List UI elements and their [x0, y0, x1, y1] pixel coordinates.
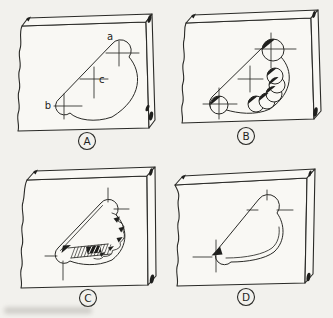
step-label-a: A: [79, 133, 96, 150]
step-label-text: A: [83, 135, 91, 147]
step-label-text: B: [242, 130, 249, 142]
step-label-text: C: [84, 292, 91, 304]
point-label-b: b: [45, 100, 51, 111]
scan-smudge: [4, 307, 92, 314]
scanned-figure-page: a c b A: [0, 0, 333, 318]
panel-d: D: [167, 157, 333, 318]
step-label-c: C: [80, 290, 97, 307]
panel-a: a c b A: [0, 0, 166, 157]
point-label-a: a: [107, 31, 113, 42]
step-label-d: D: [238, 289, 255, 306]
step-label-b: B: [238, 128, 255, 145]
block-right-face: [147, 167, 156, 285]
block-right-face: [305, 169, 315, 283]
panel-c: C: [0, 157, 166, 318]
step-label-text: D: [242, 291, 250, 303]
point-label-c: c: [99, 74, 105, 85]
panel-b: B: [167, 0, 333, 157]
